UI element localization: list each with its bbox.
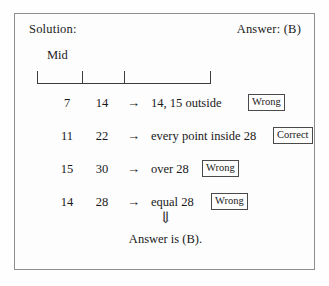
number-line <box>37 70 210 84</box>
row-value-a: 11 <box>55 129 79 144</box>
row-description: over 28 <box>151 162 189 177</box>
row-value-b: 28 <box>89 195 115 210</box>
status-badge: Wrong <box>211 193 248 210</box>
header: Solution: Answer: (B) <box>15 22 314 40</box>
answer-label: Answer: (B) <box>237 22 301 37</box>
row-description: equal 28 <box>151 195 194 210</box>
mid-label: Mid <box>47 48 68 63</box>
row-value-a: 15 <box>55 162 79 177</box>
right-arrow-icon: → <box>127 129 140 143</box>
row-description: 14, 15 outside <box>151 96 221 111</box>
number-line-tick <box>82 71 83 84</box>
row-value-b: 14 <box>89 96 115 111</box>
table-row: 15 30 → over 28 Wrong <box>15 162 314 195</box>
row-value-b: 22 <box>89 129 115 144</box>
solution-label: Solution: <box>29 22 77 37</box>
solution-page: Solution: Answer: (B) Mid 7 14 → 14, 15 … <box>0 0 329 286</box>
row-value-a: 7 <box>55 96 79 111</box>
right-arrow-icon: → <box>127 96 140 110</box>
status-badge: Correct <box>273 127 313 144</box>
solution-panel: Solution: Answer: (B) Mid 7 14 → 14, 15 … <box>14 13 315 270</box>
row-value-b: 30 <box>89 162 115 177</box>
number-line-diagram: Mid <box>15 48 314 94</box>
number-line-tick <box>124 71 125 84</box>
row-description: every point inside 28 <box>151 129 256 144</box>
right-arrow-icon: → <box>127 195 140 209</box>
number-line-tick <box>210 71 211 84</box>
final-answer-text: Answer is (B). <box>15 232 316 247</box>
table-row: 11 22 → every point inside 28 Correct <box>15 129 314 162</box>
status-badge: Wrong <box>248 94 285 111</box>
table-row: 7 14 → 14, 15 outside Wrong <box>15 96 314 129</box>
double-down-arrow-icon: ⇓ <box>15 210 316 226</box>
status-badge: Wrong <box>202 160 239 177</box>
number-line-tick <box>37 71 38 84</box>
row-value-a: 14 <box>55 195 79 210</box>
right-arrow-icon: → <box>127 162 140 176</box>
